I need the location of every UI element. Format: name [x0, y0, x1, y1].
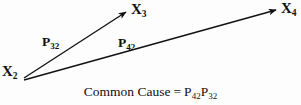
caption-term1-base: P [184, 84, 192, 99]
caption-text: Common Cause [84, 84, 171, 99]
caption-term1-subscript: 42 [192, 91, 201, 101]
edge-x2-x3-line [24, 12, 126, 78]
node-label-x4-subscript: 4 [292, 8, 297, 18]
node-label-x2-subscript: 2 [13, 71, 18, 81]
edge-label-p42: P42 [118, 36, 135, 50]
node-label-x2: X2 [2, 64, 18, 79]
node-label-x4: X4 [281, 1, 297, 16]
caption-term2-subscript: 32 [208, 91, 217, 101]
edge-label-p32: P32 [42, 35, 59, 49]
edge-label-p32-subscript: 32 [50, 41, 59, 51]
edge-x2-x4-line [24, 10, 276, 80]
caption-term2-base: P [201, 84, 209, 99]
node-label-x3-subscript: 3 [142, 9, 147, 19]
figure-caption: Common Cause=P42P32 [0, 85, 301, 99]
edge-label-p42-base: P [118, 35, 126, 50]
node-label-x4-base: X [281, 0, 292, 16]
edge-label-p42-subscript: 42 [126, 42, 135, 52]
edge-label-p32-base: P [42, 34, 50, 49]
node-label-x3: X3 [131, 2, 147, 17]
node-label-x3-base: X [131, 1, 142, 17]
caption-equals: = [170, 84, 184, 99]
common-cause-diagram: X2 X3 X4 P32 P42 Common Cause=P42P32 [0, 0, 301, 105]
node-label-x2-base: X [2, 63, 13, 79]
